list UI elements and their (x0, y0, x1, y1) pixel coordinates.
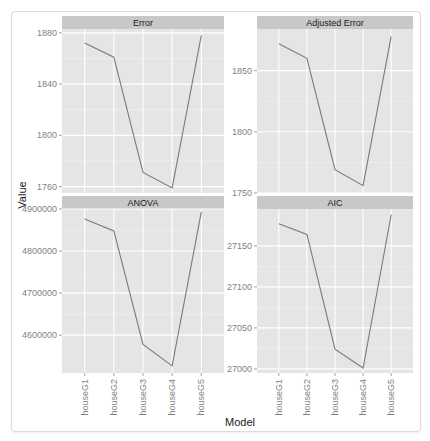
y-tick-label: 4700000 (22, 288, 57, 298)
panel-adjusted-error: Adjusted Error 175018001850 (232, 16, 413, 198)
y-tick-label: 4600000 (22, 330, 57, 340)
x-tick-label: houseG5 (386, 379, 396, 416)
panel-error: Error 1760180018401880 (37, 16, 224, 193)
y-axis-error: 1760180018401880 (37, 28, 62, 192)
x-axis-anova: houseG1houseG2houseG3houseG4houseG5 (80, 373, 207, 416)
strip-label-aic: AIC (327, 198, 343, 208)
y-axis-adjusted-error: 175018001850 (232, 66, 257, 198)
y-axis-title: Value (16, 181, 28, 208)
y-tick-label: 27100 (227, 282, 252, 292)
y-axis-anova: 4600000470000048000004900000 (22, 204, 62, 340)
x-tick-label: houseG2 (109, 379, 119, 416)
x-tick-label: houseG4 (167, 379, 177, 416)
x-axis-title: Model (225, 416, 255, 428)
y-tick-label: 4800000 (22, 246, 57, 256)
panel-aic: AIC 27000270502710027150 houseG1houseG2h… (227, 196, 413, 416)
x-tick-label: houseG2 (302, 379, 312, 416)
y-tick-label: 27050 (227, 323, 252, 333)
x-axis-aic: houseG1houseG2houseG3houseG4houseG5 (274, 373, 396, 416)
y-tick-label: 1760 (37, 182, 57, 192)
y-tick-label: 1800 (37, 130, 57, 140)
y-tick-label: 1850 (232, 66, 252, 76)
y-axis-aic: 27000270502710027150 (227, 241, 257, 374)
strip-label-error: Error (133, 18, 153, 28)
strip-label-adjusted-error: Adjusted Error (306, 18, 364, 28)
strip-label-anova: ANOVA (128, 198, 159, 208)
y-tick-label: 1840 (37, 79, 57, 89)
y-tick-label: 27000 (227, 364, 252, 374)
x-tick-label: houseG3 (330, 379, 340, 416)
faceted-line-chart: Error 1760180018401880 Adjusted Error 17… (0, 0, 430, 441)
x-tick-label: houseG5 (196, 379, 206, 416)
y-tick-label: 1750 (232, 188, 252, 198)
x-tick-label: houseG3 (138, 379, 148, 416)
y-tick-label: 1800 (232, 127, 252, 137)
x-tick-label: houseG1 (274, 379, 284, 416)
y-tick-label: 1880 (37, 28, 57, 38)
panel-anova: ANOVA 4600000470000048000004900000 house… (22, 196, 224, 416)
x-tick-label: houseG1 (80, 379, 90, 416)
y-tick-label: 27150 (227, 241, 252, 251)
x-tick-label: houseG4 (358, 379, 368, 416)
